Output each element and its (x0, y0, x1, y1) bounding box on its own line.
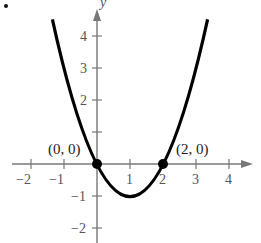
x-tick-label: −1 (49, 172, 64, 187)
point-two-label: (2, 0) (176, 141, 209, 158)
x-tick-label: 4 (225, 172, 232, 187)
x-tick-label: 2 (159, 172, 166, 187)
x-tick-label: 1 (126, 172, 133, 187)
parabola-curve (52, 19, 207, 196)
parabola-chart: y −2 −1 1 2 3 4 4 3 2 −1 −2 (0, 0) (2, 0… (0, 0, 261, 243)
y-axis-label: y (98, 0, 107, 10)
y-axis-arrow-icon (93, 9, 101, 21)
point-two-marker (158, 159, 168, 169)
y-tick-label: 2 (80, 93, 87, 108)
point-origin-label: (0, 0) (48, 141, 81, 158)
x-tick-label: −2 (16, 172, 31, 187)
y-tick-label: 3 (80, 61, 87, 76)
y-tick-label: 4 (80, 29, 87, 44)
y-tick-label: −2 (71, 221, 86, 236)
y-tick-label: −1 (71, 189, 86, 204)
x-axis-arrow-icon (241, 160, 253, 168)
point-origin-marker (92, 159, 102, 169)
x-tick-label: 3 (192, 172, 199, 187)
